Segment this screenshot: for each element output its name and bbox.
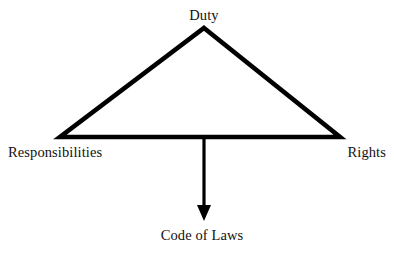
- node-label-code-of-laws: Code of Laws: [161, 228, 244, 243]
- node-label-duty: Duty: [189, 8, 218, 23]
- diagram-canvas: Duty Responsibilities Rights Code of Law…: [0, 0, 394, 254]
- node-label-responsibilities: Responsibilities: [8, 145, 102, 160]
- triangle-arrow-graphic: [0, 0, 394, 254]
- node-label-rights: Rights: [348, 145, 386, 160]
